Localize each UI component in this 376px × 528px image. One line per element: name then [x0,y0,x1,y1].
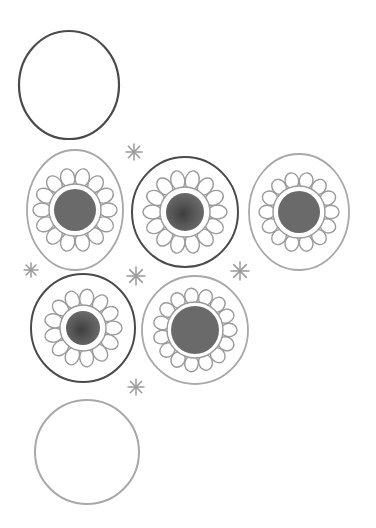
sparkle-asterisk-icon [126,144,142,160]
sparkle-asterisk-icon [231,262,249,280]
flower-center [278,191,320,233]
sparkle-asterisk-icon [128,379,144,395]
flower-center [66,311,100,345]
flower-circle-row1-middle [132,157,238,267]
flower-circle-row2-right [142,276,248,384]
flower-circle-row1-right [249,154,349,270]
sparkle-asterisk-icon [24,263,38,277]
flower-center [166,193,204,231]
petal [33,203,51,217]
flower-circle-row1-left [27,150,123,270]
petal [208,205,227,219]
flower-circle-row2-left [31,274,135,382]
petal [143,205,162,219]
empty-circle-bottom [35,400,139,504]
illustration-canvas [0,0,376,528]
empty-circles-layer [19,31,139,504]
sparkle-asterisk-icon [127,267,145,285]
empty-circle-top [19,31,119,139]
flower-center [54,189,96,231]
flower-circles-layer [27,150,349,384]
flower-center [171,306,219,354]
